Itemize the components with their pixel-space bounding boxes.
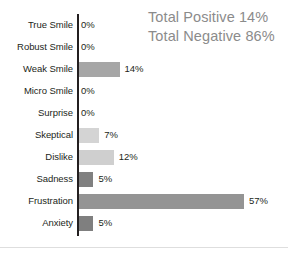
bar-row: Micro Smile0%: [0, 80, 288, 102]
emotion-bar-chart: True Smile0%Robust Smile0%Weak Smile14%M…: [0, 0, 288, 256]
bar-track: [79, 128, 99, 143]
bar-track: [79, 172, 93, 187]
bar-track: [79, 62, 120, 77]
bar-fill: [79, 62, 120, 77]
bar-row: Weak Smile14%: [0, 58, 288, 80]
bar-value-label: 14%: [125, 58, 144, 80]
bar-category-label: True Smile: [28, 14, 73, 36]
bar-category-label: Robust Smile: [17, 36, 73, 58]
bar-value-label: 5%: [98, 212, 112, 234]
bar-fill: [79, 172, 93, 187]
bar-value-label: 57%: [249, 190, 268, 212]
bar-value-label: 7%: [104, 124, 118, 146]
bar-category-label: Sadness: [36, 168, 73, 190]
bar-row: Surprise0%: [0, 102, 288, 124]
bar-row: Anxiety5%: [0, 212, 288, 234]
bar-track: [79, 150, 114, 165]
bar-category-label: Frustration: [28, 190, 73, 212]
bar-row: Skeptical7%: [0, 124, 288, 146]
bar-fill: [79, 128, 99, 143]
bar-category-label: Skeptical: [35, 124, 73, 146]
bar-value-label: 0%: [81, 80, 95, 102]
bar-rows-container: True Smile0%Robust Smile0%Weak Smile14%M…: [0, 14, 288, 234]
bar-fill: [79, 216, 93, 231]
bar-category-label: Surprise: [38, 102, 73, 124]
bar-value-label: 0%: [81, 36, 95, 58]
bar-value-label: 0%: [81, 14, 95, 36]
bar-fill: [79, 194, 244, 209]
bar-value-label: 12%: [119, 146, 138, 168]
total-negative-text: Total Negative 86%: [148, 27, 288, 46]
bottom-divider: [0, 247, 288, 248]
bar-row: Sadness5%: [0, 168, 288, 190]
bar-track: [79, 194, 244, 209]
bar-value-label: 5%: [98, 168, 112, 190]
bar-category-label: Dislike: [45, 146, 73, 168]
bar-fill: [79, 150, 114, 165]
bar-category-label: Weak Smile: [23, 58, 73, 80]
bar-category-label: Anxiety: [42, 212, 73, 234]
bar-category-label: Micro Smile: [24, 80, 73, 102]
bar-value-label: 0%: [81, 102, 95, 124]
bar-track: [79, 216, 93, 231]
bar-row: Dislike12%: [0, 146, 288, 168]
total-positive-text: Total Positive 14%: [148, 8, 288, 27]
summary-block: Total Positive 14% Total Negative 86%: [148, 8, 288, 46]
bar-row: Frustration57%: [0, 190, 288, 212]
